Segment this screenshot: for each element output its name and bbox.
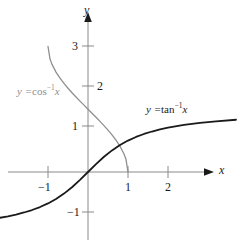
y-tick-label-1: 1: [72, 120, 78, 132]
x-tick-label-neg1: −1: [38, 181, 51, 193]
arccos-label-lhs: y =: [17, 85, 32, 97]
y-tick-label-neg1: −1: [67, 206, 80, 218]
plot-canvas: [0, 0, 237, 248]
x-tick-label-neg1-text: −1: [38, 180, 51, 194]
y-tick-label-2: 2: [97, 80, 103, 92]
x-tick-label-2: 2: [165, 181, 171, 193]
arctan-curve-label: y =tan−1x: [146, 104, 187, 115]
inverse-trig-graph-figure: x y −1 1 2 3 2 1 −1 y =cos−1x y =tan−1x: [0, 0, 237, 248]
y-axis-label: y: [84, 4, 89, 16]
arctan-curve: [0, 120, 236, 218]
arccos-label-arg: x: [55, 85, 60, 97]
arccos-label-exponent: −1: [47, 83, 55, 92]
x-tick-label-1-text: 1: [125, 180, 131, 194]
arctan-label-lhs: y =: [146, 103, 161, 115]
arctan-label-exponent: −1: [175, 101, 183, 110]
y-tick-label-3-text: 3: [72, 39, 78, 53]
y-tick-label-2-text: 2: [97, 79, 103, 93]
arccos-label-fn: cos: [32, 85, 47, 97]
arccos-curve-label: y =cos−1x: [17, 86, 60, 97]
x-tick-label-1: 1: [125, 181, 131, 193]
y-axis-label-text: y: [84, 3, 89, 17]
y-tick-label-neg1-text: −1: [67, 205, 80, 219]
arctan-label-arg: x: [183, 103, 188, 115]
y-tick-label-1-text: 1: [72, 119, 78, 133]
x-axis-label-text: x: [219, 163, 224, 177]
x-axis-arrowhead: [204, 168, 214, 176]
x-tick-label-2-text: 2: [165, 180, 171, 194]
y-tick-label-3: 3: [72, 40, 78, 52]
x-axis-label: x: [219, 164, 224, 176]
arctan-label-fn: tan: [161, 103, 174, 115]
